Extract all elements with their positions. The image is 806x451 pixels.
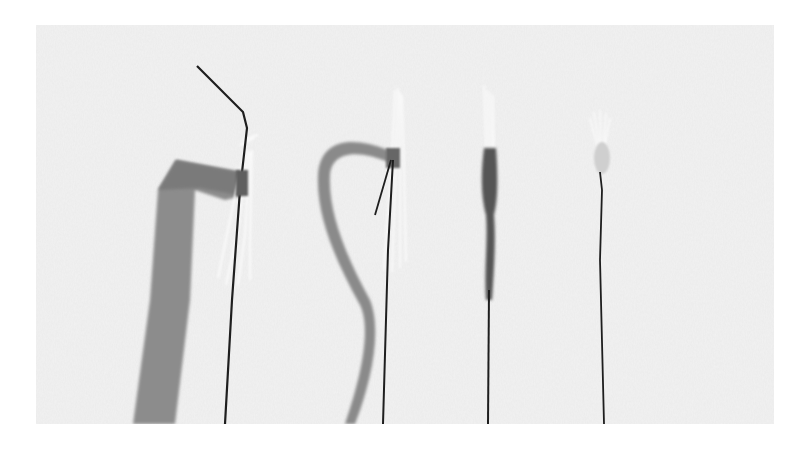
photograph: Grayscale photograph of four craft flowe…: [36, 25, 774, 424]
stamen-base: [594, 142, 610, 174]
wire-stem: [488, 290, 489, 424]
